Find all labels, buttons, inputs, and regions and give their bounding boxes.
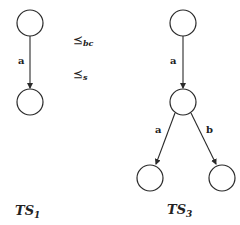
ts3-edge-label-a-left: a (155, 124, 162, 135)
ts3-graph: a a b TS3 (137, 10, 235, 219)
transition-systems-diagram: a TS1 ⪯bc ⪯s a a b TS3 (0, 0, 240, 225)
ts3-edge-b-right (191, 113, 216, 164)
ts3-edge-label-a-top: a (170, 55, 177, 66)
ts3-state-0 (170, 10, 196, 36)
relation-bc: ⪯bc (73, 33, 94, 48)
ts1-graph: a TS1 (15, 10, 43, 220)
relation-s: ⪯s (73, 67, 88, 82)
ts3-edge-label-b: b (206, 124, 213, 135)
relations: ⪯bc ⪯s (73, 33, 94, 82)
ts3-state-3 (209, 165, 235, 191)
ts3-title: TS3 (167, 202, 192, 219)
ts1-edge-label-a: a (18, 55, 25, 66)
ts1-title: TS1 (15, 203, 40, 220)
ts3-state-1 (170, 89, 196, 115)
ts1-state-0 (17, 10, 43, 36)
ts3-state-2 (137, 165, 163, 191)
ts3-edge-a-left (156, 113, 175, 164)
ts1-state-1 (17, 89, 43, 115)
